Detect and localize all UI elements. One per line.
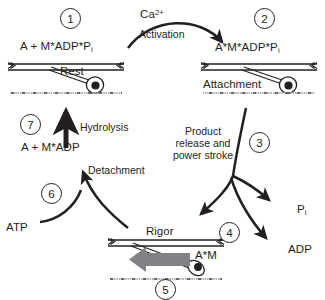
step-number-4: 4 (219, 222, 240, 243)
step-number-5: 5 (155, 279, 176, 300)
step-number-2: 2 (254, 8, 275, 29)
crossbridge-cycle-diagram: 1 A + M*ADP*Pi Rest Ca2+ Activation 2 A*… (0, 0, 325, 300)
myosin-head-attachment (279, 77, 296, 93)
step-number-3: 3 (249, 132, 270, 153)
rest-state-label: Rest (60, 65, 84, 77)
thick-filament-attachment (201, 63, 317, 71)
adp-label: ADP (288, 243, 312, 255)
step-number-1: 1 (60, 8, 81, 29)
power-stroke-label: Product release and power stroke (172, 126, 234, 161)
step-number-7: 7 (20, 114, 41, 135)
calcium-label: Ca2+ (140, 8, 164, 20)
filament-sliding-arrow (129, 247, 190, 272)
thick-filament-rigor (108, 239, 224, 247)
detachment-label: Detachment (88, 165, 145, 176)
attachment-state-label: Attachment (203, 78, 261, 90)
detached-chemistry-label: A + M*ADP (21, 141, 80, 153)
phosphate-label: Pi (297, 203, 307, 217)
atp-label: ATP (6, 221, 28, 233)
rigor-state-label: Rigor (146, 225, 173, 237)
activation-label: Activation (139, 29, 185, 40)
rigor-chemistry-label: A*M (195, 249, 217, 261)
attachment-chemistry-label: A*M*ADP*Pi (215, 41, 280, 55)
thin-filament-attachment (203, 92, 315, 98)
step-number-6: 6 (41, 183, 62, 204)
myosin-head-rest (86, 77, 103, 93)
rest-chemistry-label: A + M*ADP*Pi (20, 40, 93, 54)
hydrolysis-label: Hydrolysis (80, 122, 128, 133)
thin-filament-rest (10, 92, 122, 98)
